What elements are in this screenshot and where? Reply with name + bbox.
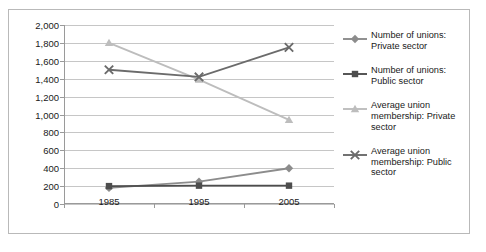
diamond-marker-icon: [342, 31, 368, 43]
chart-legend: Number of unions: Private sectorNumber o…: [342, 30, 466, 192]
chart-figure: 02004006008001,0001,2001,4001,6001,8002,…: [8, 9, 470, 234]
y-axis-tick-label: 1,600: [35, 55, 59, 66]
data-point-marker: [105, 39, 113, 46]
x-axis-tick: [64, 204, 65, 208]
y-axis-tick-label: 800: [43, 127, 59, 138]
legend-item-label: Average union membership: Public sector: [371, 146, 466, 178]
legend-item-label: Number of unions: Public sector: [371, 65, 466, 86]
legend-item-label: Average union membership: Private sector: [371, 100, 466, 132]
triangle-marker-icon: [342, 101, 368, 113]
y-axis-tick-label: 1,000: [35, 109, 59, 120]
legend-item-label: Number of unions: Private sector: [371, 30, 466, 51]
x-axis-tick-label: 1985: [98, 196, 119, 207]
x-axis-tick-label: 1995: [188, 196, 209, 207]
series-1: [106, 182, 292, 189]
y-axis-labels: 02004006008001,0001,2001,4001,6001,8002,…: [9, 25, 59, 204]
data-point-marker: [196, 182, 202, 188]
x-axis-tick: [154, 204, 155, 208]
cross-marker-icon: [342, 147, 368, 159]
y-axis-tick-label: 400: [43, 163, 59, 174]
data-point-marker: [286, 182, 292, 188]
x-axis-tick: [244, 204, 245, 208]
x-axis-tick-label: 2005: [278, 196, 299, 207]
square-marker-icon: [342, 66, 368, 78]
y-axis-tick-label: 600: [43, 145, 59, 156]
legend-item-3[interactable]: Average union membership: Public sector: [342, 146, 466, 178]
legend-item-0[interactable]: Number of unions: Private sector: [342, 30, 466, 51]
y-axis-tick-label: 1,200: [35, 91, 59, 102]
data-point-marker: [285, 164, 293, 172]
y-axis-tick-label: 0: [54, 199, 59, 210]
data-point-marker: [106, 183, 112, 189]
series-line: [109, 47, 289, 77]
plot-area: [64, 25, 334, 204]
y-axis-tick-label: 2,000: [35, 20, 59, 31]
legend-item-2[interactable]: Average union membership: Private sector: [342, 100, 466, 132]
series-lines: [64, 25, 334, 204]
legend-item-1[interactable]: Number of unions: Public sector: [342, 65, 466, 86]
y-axis-tick-label: 1,400: [35, 73, 59, 84]
y-axis-tick-label: 1,800: [35, 37, 59, 48]
y-axis-tick-label: 200: [43, 181, 59, 192]
series-2: [105, 39, 293, 123]
x-axis-tick: [334, 204, 335, 208]
